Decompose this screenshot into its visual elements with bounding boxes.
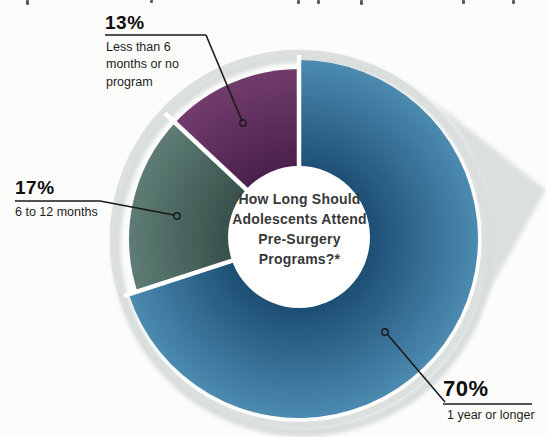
slice-17-text-label: 6 to 12 months [15,204,98,221]
slice-13-text-label: Less than 6 months or no program [106,39,200,91]
slice-70-text-label: 1 year or longer [447,407,535,424]
chart-center-title-line: Adolescents Attend [211,209,388,229]
donut-chart-figure: 13% Less than 6 months or no program 17%… [0,0,546,437]
chart-center-title-line: Pre-Surgery [211,229,388,249]
slice-13-percent-label: 13% [105,13,145,32]
chart-center-title-line: Programs?* [211,249,388,269]
slice-70-percent-label: 70% [443,378,489,400]
chart-center-title: How Long Should Adolescents Attend Pre-S… [211,189,388,269]
chart-center-title-line: How Long Should [211,189,388,209]
slice-17-percent-label: 17% [15,178,55,197]
